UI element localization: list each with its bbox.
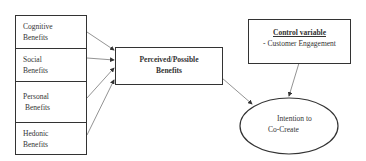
social-benefits-label: SocialBenefits [23, 54, 48, 76]
perceived-benefits-label: Perceived/PossibleBenefits [115, 54, 223, 76]
intention-label: Intention toCo-Create [268, 113, 312, 135]
arrow-hedonic-to-perceived [87, 80, 114, 135]
hedonic-benefits-label: HedonicBenefits [23, 128, 48, 150]
arrow-personal-to-perceived [87, 68, 114, 98]
arrow-perceived-to-intention [222, 78, 252, 104]
personal-benefits-label: PersonalBenefits [23, 91, 50, 113]
cognitive-benefits-label: CognitiveBenefits [23, 21, 53, 43]
control-variable-title: Control variable [248, 27, 351, 38]
arrow-control-to-intention [289, 63, 299, 96]
arrow-cognitive-to-perceived [87, 32, 114, 50]
arrow-social-to-perceived [87, 58, 114, 60]
control-variable-item: - Customer Engagement [248, 38, 351, 49]
control-variable-label: Control variable - Customer Engagement [248, 27, 351, 49]
